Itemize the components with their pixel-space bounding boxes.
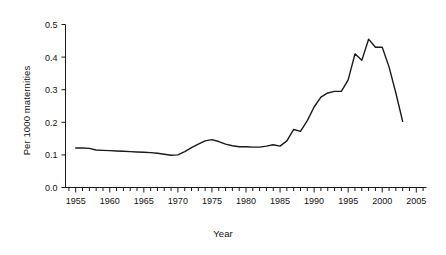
y-axis-tick-label: 0.1 [45, 150, 58, 160]
line-chart-plot: 0.00.10.20.30.40.5 195519601965197019751… [0, 0, 446, 255]
x-axis-tick-label: 2005 [406, 196, 426, 206]
x-axis-tick-label: 1995 [338, 196, 358, 206]
x-axis-tick-label: 1985 [270, 196, 290, 206]
x-axis-tick-label: 1980 [236, 196, 256, 206]
y-axis-tick-label: 0.3 [45, 85, 58, 95]
x-axis-tick-label: 1965 [134, 196, 154, 206]
y-axis-tick-label: 0.4 [45, 53, 58, 63]
x-axis-tick-label: 1970 [168, 196, 188, 206]
y-axis: 0.00.10.20.30.40.5 [45, 20, 66, 193]
data-series-group [76, 39, 403, 155]
x-axis-tick-label: 2000 [372, 196, 392, 206]
chart-container: 0.00.10.20.30.40.5 195519601965197019751… [0, 0, 446, 255]
y-axis-title: Per 1000 maternities [21, 41, 32, 181]
x-axis-tick-label: 1990 [304, 196, 324, 206]
x-axis-tick-label: 1960 [100, 196, 120, 206]
y-axis-tick-label: 0.0 [45, 183, 58, 193]
data-line [76, 39, 403, 155]
y-axis-tick-label: 0.5 [45, 20, 58, 30]
y-axis-tick-label: 0.2 [45, 118, 58, 128]
x-axis-tick-label: 1955 [66, 196, 86, 206]
x-axis-tick-label: 1975 [202, 196, 222, 206]
x-axis-title: Year [0, 228, 446, 239]
x-axis: 1955196019651970197519801985199019952000… [66, 188, 427, 206]
